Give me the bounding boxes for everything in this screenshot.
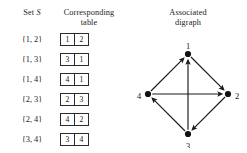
table-cell: 3 (74, 94, 88, 105)
table-cell: 1 (74, 54, 88, 65)
corresponding-table: 42 (60, 113, 89, 126)
set-label: {3, 4} (6, 135, 58, 145)
column-header-table-line1: Corresponding (64, 8, 115, 17)
column-header-associated-digraph: Associated digraph (148, 8, 228, 27)
table-row: {1, 4}41 (0, 71, 123, 91)
table-cell: 1 (61, 34, 74, 45)
digraph-svg: 1234 (134, 40, 242, 148)
column-header-set: Set S (6, 8, 58, 18)
digraph-node-label-1: 1 (186, 42, 190, 51)
table-cell: 4 (74, 134, 88, 145)
set-label: {1, 3} (6, 55, 58, 65)
set-label: {2, 4} (6, 115, 58, 125)
column-header-table-line2: table (56, 18, 122, 28)
digraph-edge-2-to-3 (193, 97, 225, 129)
column-header-set-symbol: S (36, 8, 40, 17)
set-label: {2, 3} (6, 95, 58, 105)
column-header-set-word: Set (23, 8, 34, 17)
table-row: {1, 3}31 (0, 51, 123, 71)
digraph-node-label-2: 2 (235, 92, 239, 101)
column-header-corresponding-table: Corresponding table (56, 8, 122, 27)
table-cell: 3 (61, 134, 74, 145)
figure-set-table-digraph: Set S Corresponding table Associated dig… (0, 0, 247, 153)
table-row: {2, 4}42 (0, 111, 123, 131)
set-label: {1, 2} (6, 35, 58, 45)
digraph-edge-3-to-4 (153, 99, 185, 131)
table-cell: 4 (61, 74, 74, 85)
digraph-node-4 (145, 91, 151, 97)
table-cell: 2 (74, 114, 88, 125)
corresponding-table: 34 (60, 133, 89, 146)
corresponding-table: 23 (60, 93, 89, 106)
column-header-digraph-line2: digraph (148, 18, 228, 28)
digraph-node-label-3: 3 (186, 142, 190, 148)
corresponding-table: 41 (60, 73, 89, 86)
digraph-node-3 (185, 131, 191, 137)
table-row: {1, 2}12 (0, 31, 123, 51)
table-cell: 3 (61, 54, 74, 65)
table-cell: 2 (74, 34, 88, 45)
table-row: {2, 3}23 (0, 91, 123, 111)
digraph-node-label-4: 4 (137, 92, 142, 101)
table-row: {3, 4}34 (0, 131, 123, 151)
table-cell: 4 (61, 114, 74, 125)
digraph-edge-4-to-1 (151, 59, 183, 91)
digraph-edge-layer (151, 57, 225, 131)
corresponding-table: 12 (60, 33, 89, 46)
set-label: {1, 4} (6, 75, 58, 85)
corresponding-table: 31 (60, 53, 89, 66)
digraph-edge-1-to-2 (191, 57, 223, 89)
table-cell: 1 (74, 74, 88, 85)
table-cell: 2 (61, 94, 74, 105)
associated-digraph: 1234 (134, 40, 242, 148)
digraph-node-1 (185, 51, 191, 57)
digraph-node-2 (225, 91, 231, 97)
column-header-digraph-line1: Associated (169, 8, 206, 17)
rows-container: {1, 2}12{1, 3}31{1, 4}41{2, 3}23{2, 4}42… (0, 31, 123, 151)
